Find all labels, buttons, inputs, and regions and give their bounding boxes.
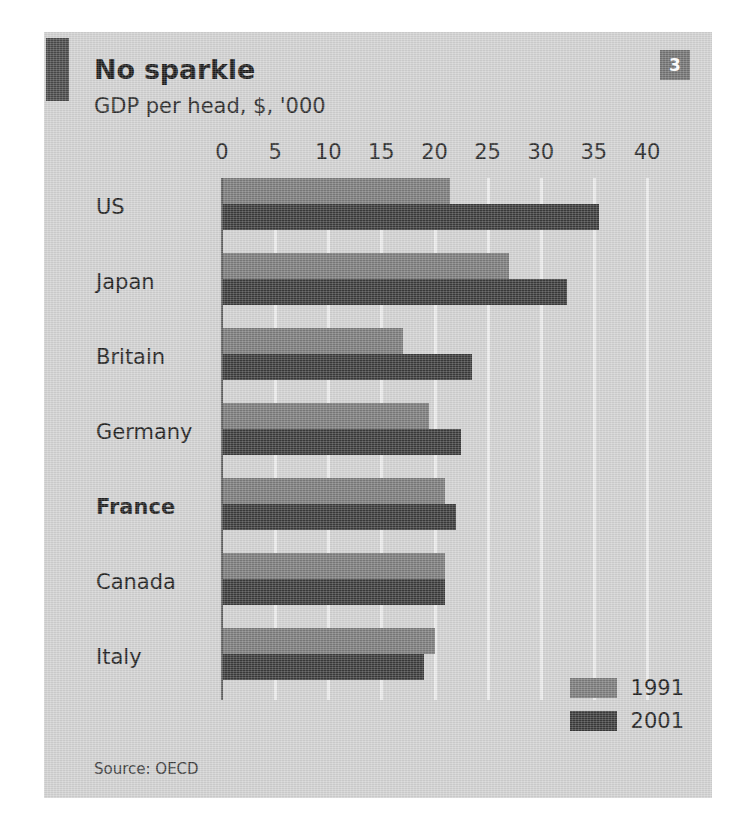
legend-swatch-2001 <box>570 711 617 731</box>
category-label-germany: Germany <box>96 420 193 444</box>
bar-canada-1991 <box>222 553 445 579</box>
category-label-france: France <box>96 495 175 519</box>
bar-row: Germany <box>44 403 712 478</box>
bar-row: Canada <box>44 553 712 628</box>
legend-label-1991: 1991 <box>631 676 684 700</box>
axis-zero-line <box>221 178 223 700</box>
bar-row: Britain <box>44 328 712 403</box>
page-title: No sparkle <box>94 54 255 85</box>
bar-japan-1991 <box>222 253 509 279</box>
bar-britain-2001 <box>222 354 472 380</box>
x-axis-tick-0: 0 <box>215 140 228 164</box>
legend-swatch-1991 <box>570 678 617 698</box>
bar-britain-1991 <box>222 328 403 354</box>
accent-bar <box>46 38 69 101</box>
x-axis-tick-10: 10 <box>315 140 342 164</box>
chart-panel: No sparkle GDP per head, $, '000 3 05101… <box>44 32 712 798</box>
x-axis-tick-35: 35 <box>581 140 608 164</box>
bar-germany-2001 <box>222 429 461 455</box>
bar-rows: USJapanBritainGermanyFranceCanadaItaly <box>44 178 712 703</box>
bar-canada-2001 <box>222 579 445 605</box>
x-axis-tick-30: 30 <box>527 140 554 164</box>
bar-japan-2001 <box>222 279 567 305</box>
bar-row: Japan <box>44 253 712 328</box>
bar-row: France <box>44 478 712 553</box>
category-label-italy: Italy <box>96 645 142 669</box>
bar-germany-1991 <box>222 403 429 429</box>
x-axis-tick-40: 40 <box>634 140 661 164</box>
plot-area: 0510152025303540 USJapanBritainGermanyFr… <box>44 140 712 752</box>
category-label-japan: Japan <box>96 270 155 294</box>
x-axis-tick-20: 20 <box>421 140 448 164</box>
bar-italy-2001 <box>222 654 424 680</box>
category-label-britain: Britain <box>96 345 165 369</box>
category-label-canada: Canada <box>96 570 176 594</box>
bar-italy-1991 <box>222 628 435 654</box>
bar-france-1991 <box>222 478 445 504</box>
bar-row: US <box>44 178 712 253</box>
legend: 19912001 <box>570 676 684 742</box>
chart-subtitle: GDP per head, $, '000 <box>94 94 326 118</box>
legend-item-2001: 2001 <box>570 709 684 733</box>
source-note: Source: OECD <box>94 760 199 778</box>
bar-france-2001 <box>222 504 456 530</box>
legend-label-2001: 2001 <box>631 709 684 733</box>
category-label-us: US <box>96 195 125 219</box>
x-axis-tick-15: 15 <box>368 140 395 164</box>
bar-us-2001 <box>222 204 599 230</box>
legend-item-1991: 1991 <box>570 676 684 700</box>
bar-us-1991 <box>222 178 450 204</box>
chart-number-badge: 3 <box>660 50 690 80</box>
x-axis-tick-5: 5 <box>268 140 281 164</box>
x-axis-tick-25: 25 <box>474 140 501 164</box>
